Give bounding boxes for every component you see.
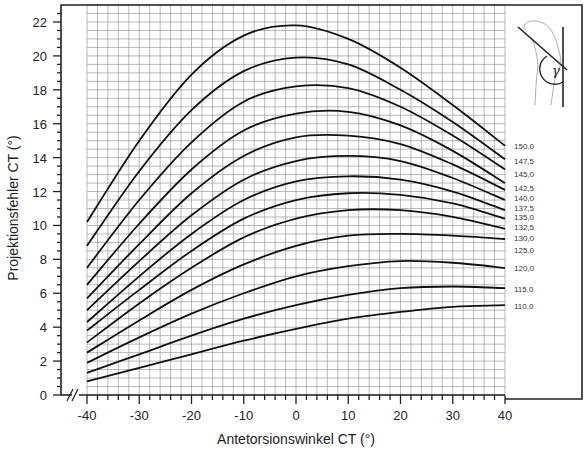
y-tick-label: 8 [40,252,47,267]
y-tick-label: 14 [33,151,47,166]
curve-label: 120,0 [514,264,535,273]
x-axis-title: Antetorsionswinkel CT (°) [217,431,375,447]
y-tick-label: 20 [33,49,47,64]
y-tick-label: 10 [33,218,47,233]
y-tick-label: 6 [40,286,47,301]
gamma-symbol: γ [552,63,560,78]
curve-label: 132,5 [514,223,535,232]
x-tick-label: -30 [130,408,149,423]
curve-label: 142,5 [514,184,535,193]
curve-label: 147,5 [514,157,535,166]
curve-label: 125,0 [514,246,535,255]
x-tick-label: 40 [498,408,512,423]
axis-break-icon [72,389,78,401]
curve-label: 140,0 [514,194,535,203]
x-tick-label: -20 [182,408,201,423]
y-tick-label: 12 [33,185,47,200]
curve-label: 110,0 [514,302,534,311]
y-axis: 0246810121416182022 [33,14,61,403]
y-axis-title: Projektionsfehler CT (°) [5,135,21,280]
curve-label: 115,0 [514,285,534,294]
x-tick-label: 30 [446,408,460,423]
femur-angle-inset-icon: γ [518,21,567,107]
y-tick-label: 4 [40,320,47,335]
y-tick-label: 18 [33,83,47,98]
x-tick-label: 0 [292,408,299,423]
curve-label: 150,0 [514,142,535,151]
y-tick-label: 22 [33,15,47,30]
y-tick-label: 0 [40,388,47,403]
curve-labels: 150,0147,5145,0142,5140,0137,5135,0132,5… [514,142,535,311]
x-tick-label: -10 [234,408,253,423]
y-tick-label: 2 [40,354,47,369]
y-tick-label: 16 [33,117,47,132]
curve-label: 135,0 [514,213,535,222]
x-tick-label: 10 [341,408,355,423]
chart: 0246810121416182022 -40-30-20-1001020304… [0,0,587,456]
x-tick-label: 20 [393,408,407,423]
curve-label: 130,0 [514,234,535,243]
curve-label: 137,5 [514,204,535,213]
x-tick-label: -40 [78,408,97,423]
curve-label: 145,0 [514,170,535,179]
